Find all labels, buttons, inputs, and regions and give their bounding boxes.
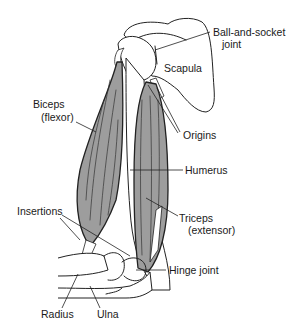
label-origins: Origins [183,129,216,141]
label-biceps-line1: Biceps [33,98,65,110]
label-radius: Radius [41,308,74,320]
leader-biceps [76,122,96,132]
arm-muscle-diagram: Ball-and-socket joint Scapula Biceps (fl… [0,0,300,331]
biceps-muscle [77,48,124,262]
label-insertions: Insertions [17,205,63,217]
label-hinge-joint: Hinge joint [169,264,219,276]
label-humerus: Humerus [185,164,228,176]
label-ball-socket-line2: joint [221,38,241,50]
label-ulna: Ulna [97,308,119,320]
label-scapula: Scapula [164,62,202,74]
label-ball-socket-line1: Ball-and-socket [213,26,285,38]
leader-insertion-1 [60,218,80,240]
label-biceps-line2: (flexor) [41,111,74,123]
label-triceps-line1: Triceps [179,212,213,224]
label-triceps-line2: (extensor) [188,224,235,236]
